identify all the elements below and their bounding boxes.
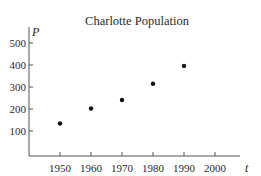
y-axis-label: P: [31, 25, 40, 39]
x-tick-label: 1950: [49, 162, 72, 174]
data-point: [120, 98, 124, 102]
data-point: [182, 64, 186, 68]
chart-title: Charlotte Population: [85, 14, 190, 28]
x-tick-label: 2000: [204, 162, 227, 174]
x-tick-label: 1990: [173, 162, 196, 174]
x-axis-label: t: [245, 161, 249, 175]
x-tick-label: 1960: [80, 162, 103, 174]
data-point: [58, 121, 62, 125]
data-point: [151, 82, 155, 86]
y-tick-label: 400: [10, 59, 27, 71]
y-tick-label: 500: [10, 37, 27, 49]
y-tick-label: 100: [10, 125, 27, 137]
x-axis-ticks: 195019601970198019902000: [49, 152, 227, 174]
data-point: [89, 106, 93, 110]
data-points: [58, 64, 186, 126]
y-tick-label: 300: [10, 81, 27, 93]
x-tick-label: 1980: [142, 162, 165, 174]
x-tick-label: 1970: [111, 162, 134, 174]
scatter-chart: Charlotte Population P t 100200300400500…: [0, 0, 261, 176]
y-tick-label: 200: [10, 103, 27, 115]
